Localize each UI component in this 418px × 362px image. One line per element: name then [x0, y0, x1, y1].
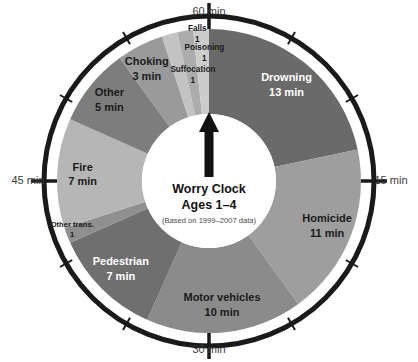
center-subtitle: Ages 1–4	[182, 198, 237, 212]
slice-label-name: Pedestrian	[93, 255, 150, 267]
slice-label-name: Other trans.	[51, 220, 94, 229]
slice-label-value: 1	[195, 35, 200, 44]
slice-label-value: 3 min	[132, 70, 161, 82]
slice-label-value: 7 min	[106, 270, 135, 282]
tick-label-left: 45 min	[11, 174, 44, 186]
slice-label-value: 1	[191, 76, 196, 85]
tick-label-top: 60 min	[192, 5, 225, 17]
slice-label-name: Other	[95, 86, 125, 98]
slice-label-value: 5 min	[95, 101, 124, 113]
slice-label-name: Fire	[73, 161, 93, 173]
slice-label-name: Falls	[188, 24, 207, 33]
slice-label-value: 10 min	[205, 306, 240, 318]
center-note: (Based on 1999–2007 data)	[162, 216, 257, 225]
center-title: Worry Clock	[172, 182, 245, 196]
slice-label-name: Homicide	[302, 212, 352, 224]
slice-label-name: Suffocation	[170, 65, 215, 74]
slice-label-value: 1	[202, 54, 207, 63]
slice-label-value: 7 min	[68, 175, 97, 187]
slice-label-value: 11 min	[310, 227, 345, 239]
slice-label-name: Drowning	[261, 71, 312, 83]
worry-clock-chart: Drowning13 minHomicide11 minMotor vehicl…	[0, 0, 418, 362]
tick-label-right: 15 min	[374, 174, 407, 186]
worry-clock-figure: Drowning13 minHomicide11 minMotor vehicl…	[0, 0, 418, 362]
slice-label-name: Motor vehicles	[183, 291, 260, 303]
slice-label-value: 13 min	[269, 86, 304, 98]
tick-label-bottom: 30 min	[192, 343, 225, 355]
slice-label-name: Choking	[125, 55, 169, 67]
slice-label-name: Poisoning	[185, 43, 225, 52]
